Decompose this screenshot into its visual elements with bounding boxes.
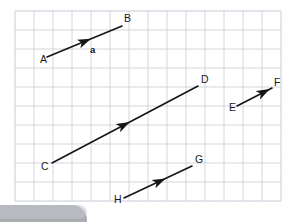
point-label-g: G (195, 153, 203, 165)
point-label-d: D (201, 73, 209, 85)
point-label-c: C (41, 160, 49, 172)
point-label-h: H (114, 193, 122, 205)
vector-name-label-ab: a (90, 44, 96, 55)
point-label-b: B (124, 12, 131, 24)
vector-diagram-screenshot: ABaCDEFHG Parallel vectors on graph pape… (0, 0, 306, 222)
point-label-f: F (274, 76, 280, 88)
page-background (0, 0, 306, 222)
grey-rounded-shape (0, 205, 87, 222)
point-label-e: E (229, 101, 236, 113)
graph-paper-figure: ABaCDEFHG (0, 0, 306, 222)
point-label-a: A (40, 53, 47, 65)
